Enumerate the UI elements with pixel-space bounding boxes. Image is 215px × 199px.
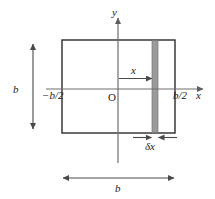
y-axis-label: y xyxy=(111,6,117,18)
strip-width-label: δx xyxy=(145,140,155,152)
distance-x-label: x xyxy=(130,64,136,76)
width-dimension-label: b xyxy=(115,182,121,194)
left-edge-coordinate-label: −b/2 xyxy=(42,89,64,101)
x-axis-label: x xyxy=(195,89,201,101)
height-dimension-label: b xyxy=(13,83,19,95)
cross-section-diagram: b y x O −b/2 b/2 x δx xyxy=(0,0,215,199)
origin-label: O xyxy=(108,91,116,103)
right-edge-coordinate-label: b/2 xyxy=(173,89,188,101)
figure-container: b y x O −b/2 b/2 x δx xyxy=(0,0,215,199)
elemental-strip xyxy=(152,41,158,133)
